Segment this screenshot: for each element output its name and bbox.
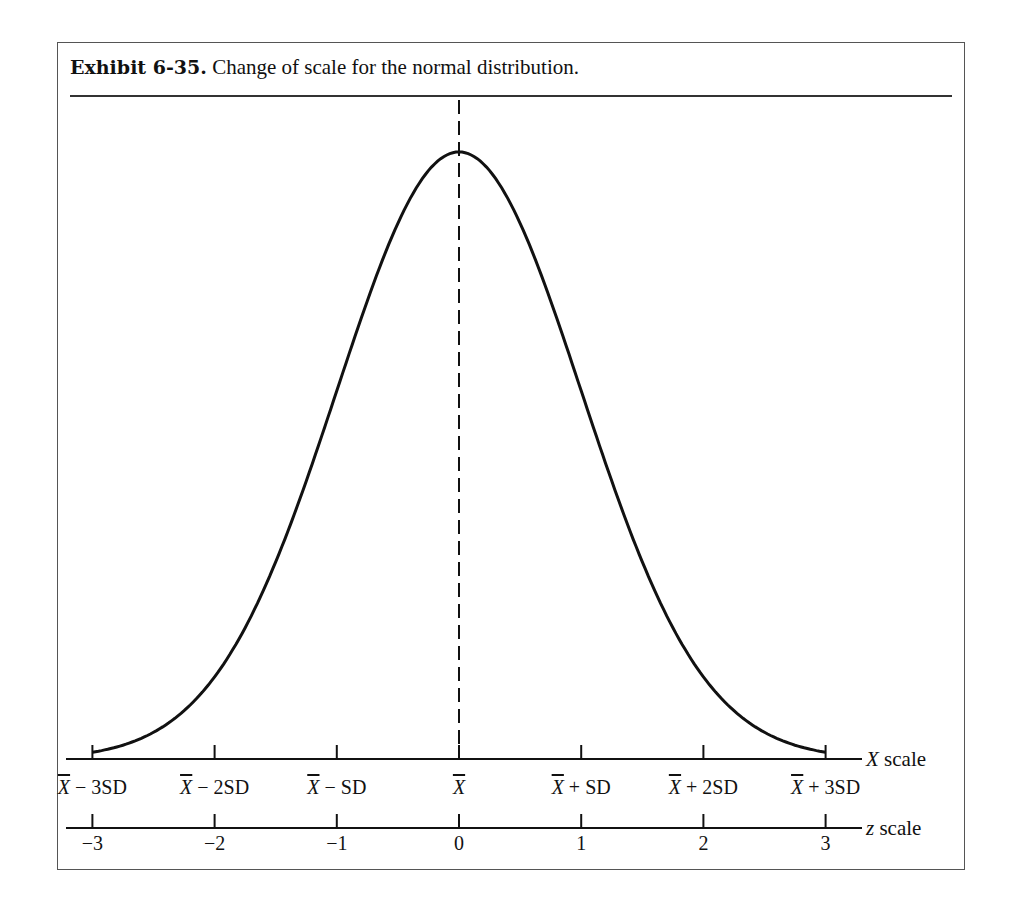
x-scale-tick-label: X − 2SD [180,776,249,799]
z-scale-tick-label: −3 [82,832,103,855]
x-scale-name: X scale [866,747,926,772]
x-scale-tick-label: X − SD [307,776,366,799]
z-scale-tick-label: 1 [576,832,586,855]
normal-curve [92,152,825,752]
z-scale-tick-label: 3 [821,832,831,855]
x-scale-tick-label: X + 3SD [791,776,860,799]
z-scale-tick-label: −1 [326,832,347,855]
z-scale-name: z scale [866,816,921,841]
x-scale-tick-label: X [453,776,465,799]
z-scale-tick-label: 0 [454,832,464,855]
z-scale-tick-label: 2 [698,832,708,855]
x-scale-tick-label: X − 3SD [58,776,127,799]
x-scale-tick-label: X + SD [552,776,611,799]
x-scale-tick-label: X + 2SD [669,776,738,799]
z-scale-tick-label: −2 [204,832,225,855]
